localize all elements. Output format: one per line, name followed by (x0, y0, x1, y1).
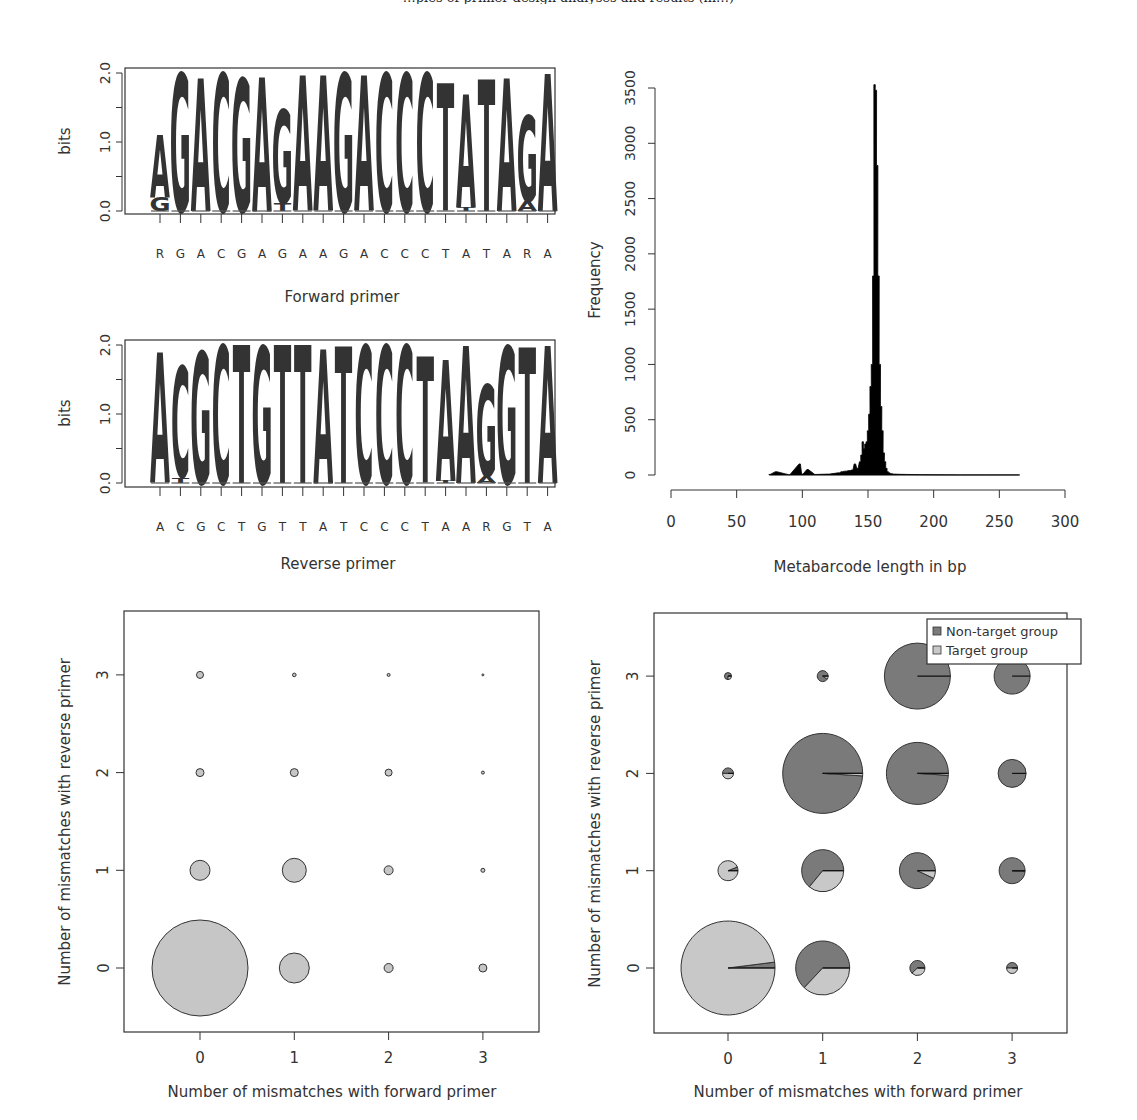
pie-x-axis: 0123 (723, 1033, 1017, 1068)
consensus-letter: A (462, 247, 471, 261)
histogram-x-axis: 050100150200250300 (666, 490, 1079, 531)
consensus-letter: T (278, 520, 287, 534)
bubble-point (387, 673, 390, 676)
consensus-letter: T (298, 520, 307, 534)
legend-label-target: Target group (945, 643, 1028, 658)
histogram-silhouette (769, 85, 1020, 475)
pie-slice-non-target (723, 768, 734, 773)
histogram-y-axis: 0500100015002000250030003500 (622, 70, 655, 479)
y-tick-label: 1.0 (97, 403, 113, 425)
consensus-letter: A (319, 247, 328, 261)
x-tick-label: 0 (723, 1050, 733, 1068)
pie-chart (999, 858, 1025, 884)
pie-chart (681, 921, 775, 1015)
bubble-point (479, 964, 487, 972)
y-tick-label: 3500 (622, 70, 638, 106)
consensus-letter: C (380, 247, 388, 261)
logo-letter-G: G (517, 91, 538, 228)
pie-chart (998, 759, 1026, 787)
consensus-letter: A (543, 520, 552, 534)
bubble-point (197, 671, 204, 678)
x-tick-label: 1 (818, 1050, 828, 1068)
bubble-point (282, 858, 306, 882)
pie-slice-target (723, 773, 734, 779)
reverse-logo-ylabel: bits (56, 399, 74, 427)
consensus-letter: G (196, 520, 205, 534)
consensus-letter: C (401, 520, 409, 534)
consensus-letter: A (543, 247, 552, 261)
consensus-letter: G (278, 247, 287, 261)
bubble-y-axis: 0123 (95, 670, 125, 973)
consensus-letter: A (197, 247, 206, 261)
x-tick-label: 250 (985, 513, 1014, 531)
consensus-letter: A (462, 520, 471, 534)
y-tick-label: 2.0 (97, 62, 113, 84)
pie-chart (886, 742, 948, 804)
y-tick-label: 1000 (622, 347, 638, 383)
consensus-letter: C (217, 520, 225, 534)
consensus-letter: G (176, 247, 185, 261)
reverse-logo-y-axis: 0.01.02.0 (97, 334, 122, 494)
consensus-letter: C (176, 520, 184, 534)
bubble-point (290, 769, 298, 777)
reverse-logo-xlabel: Reverse primer (281, 555, 397, 573)
length-histogram: 0500100015002000250030003500 05010015020… (586, 70, 1079, 576)
bubble-point (152, 920, 248, 1016)
x-tick-label: 0 (195, 1049, 205, 1067)
consensus-letter: C (401, 247, 409, 261)
y-tick-label: 3 (625, 671, 643, 681)
pie-legend: Non-target group Target group (927, 619, 1081, 664)
bubble-point (190, 860, 210, 880)
pie-chart (783, 733, 863, 813)
bubble-point (481, 868, 485, 872)
x-tick-label: 2 (384, 1049, 394, 1067)
consensus-letter: A (258, 247, 267, 261)
consensus-letter: A (503, 247, 512, 261)
pie-chart (718, 861, 738, 881)
consensus-letter: A (319, 520, 328, 534)
pie-chart (725, 673, 732, 680)
x-tick-label: 150 (854, 513, 883, 531)
consensus-letter: T (482, 247, 491, 261)
mismatch-pie-plot: 0123 0123 Number of mismatches with reve… (586, 613, 1081, 1101)
pie-chart (723, 768, 734, 779)
consensus-letter: T (421, 520, 430, 534)
x-tick-label: 300 (1051, 513, 1080, 531)
y-tick-label: 3 (95, 670, 113, 680)
y-tick-label: 1 (95, 866, 113, 876)
bubble-point (481, 771, 484, 774)
y-tick-label: 1500 (622, 291, 638, 327)
reverse-logo-letters: ATCGCTGTTATCCCTTAAAGGTA (150, 308, 557, 528)
consensus-letter: R (482, 520, 490, 534)
bubble-point (293, 673, 297, 677)
mismatch-bubble-plot: 0123 0123 Number of mismatches with reve… (56, 611, 539, 1101)
x-tick-label: 50 (727, 513, 746, 531)
consensus-letter: C (360, 520, 368, 534)
consensus-letter: R (156, 247, 164, 261)
bubble-xlabel: Number of mismatches with forward primer (168, 1083, 498, 1101)
forward-logo-letters: GAGACGATGAAGACCCTTATAAGA (149, 36, 557, 256)
bubble-point (384, 866, 393, 875)
pie-y-axis: 0123 (625, 671, 655, 972)
y-tick-label: 2500 (622, 181, 638, 217)
consensus-letter: C (380, 520, 388, 534)
histogram-ylabel: Frequency (586, 241, 604, 319)
consensus-letter: A (156, 520, 165, 534)
consensus-letter: G (237, 247, 246, 261)
legend-swatch-non-target (933, 627, 941, 635)
histogram-bars (769, 85, 1020, 475)
pie-xlabel: Number of mismatches with forward primer (694, 1083, 1024, 1101)
consensus-letter: G (339, 247, 348, 261)
x-tick-label: 3 (478, 1049, 488, 1067)
forward-logo-ylabel: bits (56, 127, 74, 155)
y-tick-label: 1.0 (97, 131, 113, 153)
bubble-point (384, 964, 393, 973)
forward-primer-logo: GAGACGATGAAGACCCTTATAAGA 0.01.02.0 RGACG… (56, 36, 558, 306)
y-tick-label: 2000 (622, 236, 638, 272)
x-tick-label: 1 (290, 1049, 300, 1067)
bubble-marks (152, 671, 487, 1016)
bubble-point (385, 769, 392, 776)
histogram-xlabel: Metabarcode length in bp (774, 558, 967, 576)
pie-slice-target (1007, 968, 1018, 974)
y-tick-label: 0 (95, 963, 113, 973)
